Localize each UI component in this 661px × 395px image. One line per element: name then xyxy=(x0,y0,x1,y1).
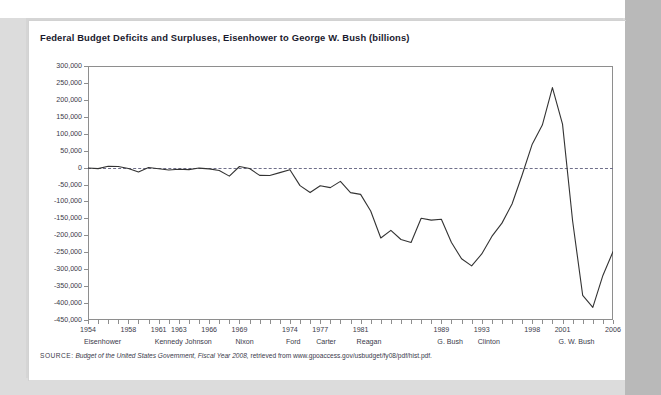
y-axis-tick xyxy=(84,303,88,304)
y-axis-tick-label: -250,000 xyxy=(26,248,82,256)
y-axis-tick xyxy=(84,117,88,118)
x-axis-tick xyxy=(149,320,150,324)
president-era-label: Eisenhower xyxy=(84,338,121,346)
x-axis-tick xyxy=(522,320,523,324)
x-axis-tick xyxy=(603,320,604,324)
y-axis-tick-label: 150,000 xyxy=(26,113,82,121)
x-axis-tick xyxy=(108,320,109,324)
president-era-label: Clinton xyxy=(478,338,500,346)
x-axis-year-label: 2006 xyxy=(605,326,621,334)
x-axis-tick xyxy=(411,320,412,324)
x-axis-year-label: 2001 xyxy=(555,326,571,334)
y-axis-tick xyxy=(84,100,88,101)
x-axis-tick xyxy=(88,320,89,324)
x-axis-tick xyxy=(391,320,392,324)
y-axis-tick xyxy=(84,168,88,169)
x-axis-tick xyxy=(189,320,190,324)
x-axis-tick xyxy=(502,320,503,324)
president-era-label: Johnson xyxy=(185,338,212,346)
x-axis-year-label: 1963 xyxy=(171,326,187,334)
y-axis-tick-label: -100,000 xyxy=(26,197,82,205)
y-axis-tick xyxy=(84,269,88,270)
y-axis-tick xyxy=(84,151,88,152)
x-axis-tick xyxy=(421,320,422,324)
x-axis-tick xyxy=(441,320,442,324)
y-axis-tick xyxy=(84,235,88,236)
y-axis-tick-label: -200,000 xyxy=(26,231,82,239)
y-axis-tick-label: -300,000 xyxy=(26,265,82,273)
y-axis-tick-label: 50,000 xyxy=(26,147,82,155)
president-era-label: G. W. Bush xyxy=(559,338,595,346)
x-axis-year-label: 1993 xyxy=(474,326,490,334)
x-axis-year-label: 1989 xyxy=(433,326,449,334)
x-axis-tick xyxy=(542,320,543,324)
page-right-margin-band xyxy=(625,0,661,395)
x-axis-year-label: 1958 xyxy=(120,326,136,334)
y-axis-tick-label: -450,000 xyxy=(26,316,82,324)
source-note: SOURCE: Budget of the United States Gove… xyxy=(40,352,432,359)
x-axis-tick xyxy=(431,320,432,324)
x-axis-tick xyxy=(512,320,513,324)
page-top-white-strip xyxy=(0,0,625,18)
x-axis-tick xyxy=(593,320,594,324)
x-axis-tick xyxy=(199,320,200,324)
x-axis-tick xyxy=(280,320,281,324)
y-axis-tick-label: 0 xyxy=(26,164,82,172)
x-axis-tick xyxy=(381,320,382,324)
page-title: Federal Budget Deficits and Surpluses, E… xyxy=(40,32,410,43)
y-axis-tick xyxy=(84,83,88,84)
x-axis-tick xyxy=(462,320,463,324)
x-axis-tick xyxy=(270,320,271,324)
x-axis-tick xyxy=(451,320,452,324)
y-axis-tick xyxy=(84,201,88,202)
x-axis-tick xyxy=(219,320,220,324)
y-axis-tick xyxy=(84,185,88,186)
y-axis-tick xyxy=(84,286,88,287)
president-era-label: Ford xyxy=(286,338,301,346)
y-axis-tick xyxy=(84,66,88,67)
x-axis-tick xyxy=(209,320,210,324)
x-axis-tick xyxy=(250,320,251,324)
x-axis-tick xyxy=(128,320,129,324)
chart-plot-area: 300,000250,000200,000150,000100,00050,00… xyxy=(88,66,613,320)
x-axis-tick xyxy=(320,320,321,324)
x-axis-tick xyxy=(472,320,473,324)
president-era-label: Reagan xyxy=(357,338,382,346)
y-axis-tick-label: -50,000 xyxy=(26,181,82,189)
x-axis-tick xyxy=(482,320,483,324)
x-axis-tick xyxy=(310,320,311,324)
x-axis-tick xyxy=(563,320,564,324)
source-citation-italic: Budget of the United States Government, … xyxy=(75,352,248,359)
x-axis-tick xyxy=(583,320,584,324)
x-axis-year-label: 1961 xyxy=(151,326,167,334)
x-axis-tick xyxy=(371,320,372,324)
x-axis-tick xyxy=(260,320,261,324)
x-axis-tick xyxy=(290,320,291,324)
y-axis-tick-label: 100,000 xyxy=(26,130,82,138)
x-axis-tick xyxy=(229,320,230,324)
y-axis-tick-label: 200,000 xyxy=(26,96,82,104)
source-citation-rest: retrieved from www.gpoaccess.gov/usbudge… xyxy=(249,352,432,359)
x-axis-tick xyxy=(239,320,240,324)
x-axis-tick xyxy=(159,320,160,324)
deficit-surplus-line-series xyxy=(88,66,613,320)
president-era-label: G. Bush xyxy=(437,338,463,346)
x-axis-year-label: 1974 xyxy=(282,326,298,334)
x-axis-year-label: 1981 xyxy=(353,326,369,334)
y-axis-tick xyxy=(84,218,88,219)
x-axis-year-label: 1977 xyxy=(312,326,328,334)
president-era-label: Carter xyxy=(316,338,336,346)
x-axis-tick xyxy=(340,320,341,324)
president-era-label: Kennedy xyxy=(155,338,183,346)
x-axis-tick xyxy=(98,320,99,324)
y-axis-tick xyxy=(84,134,88,135)
x-axis-tick xyxy=(492,320,493,324)
x-axis-tick xyxy=(138,320,139,324)
y-axis-tick xyxy=(84,252,88,253)
president-era-label: Nixon xyxy=(235,338,253,346)
x-axis-year-label: 1954 xyxy=(80,326,96,334)
y-axis-tick-label: 300,000 xyxy=(26,62,82,70)
x-axis-tick xyxy=(118,320,119,324)
y-axis-tick-label: -350,000 xyxy=(26,282,82,290)
x-axis-tick xyxy=(401,320,402,324)
